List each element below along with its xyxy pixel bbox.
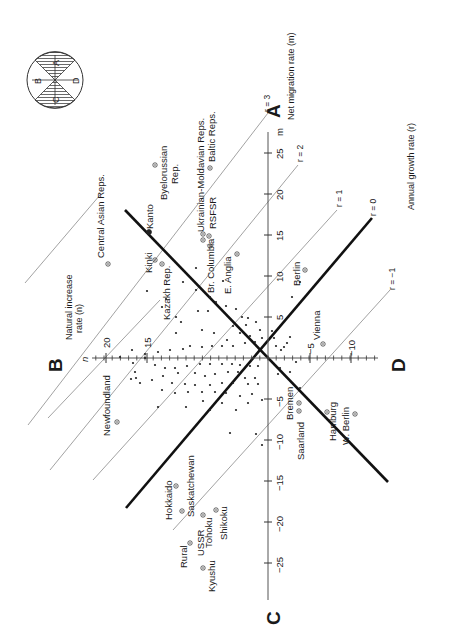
scatter-point xyxy=(232,325,234,327)
scatter-point xyxy=(291,296,293,298)
named-points: Byelorussian Rep. Ukrainian-Moldavian Re… xyxy=(95,111,357,592)
scatter-point xyxy=(209,384,211,386)
diagram-label: 5 xyxy=(274,315,285,320)
scatter-point xyxy=(164,367,166,369)
scatter-point xyxy=(132,362,134,364)
scatter-point xyxy=(185,406,187,408)
scatter-point xyxy=(275,345,277,347)
scatter-point xyxy=(214,373,216,375)
r-line-2 xyxy=(50,165,298,470)
scatter-point xyxy=(239,395,241,397)
scatter-point xyxy=(209,409,211,411)
scatter-point xyxy=(259,329,261,331)
scatter-point xyxy=(131,349,133,351)
diagram-label: E. Anglia xyxy=(222,256,233,294)
quadrant-key-circle: A B C D xyxy=(27,52,83,109)
scatter-point xyxy=(229,432,231,434)
diagram-label: 10 xyxy=(274,271,285,282)
scatter-point xyxy=(194,384,196,386)
scatter-point xyxy=(207,310,209,312)
scatter-point xyxy=(146,290,148,292)
scatter-point xyxy=(247,317,249,319)
scatter-point xyxy=(202,400,204,402)
scatter-point xyxy=(182,348,184,350)
scatter-point xyxy=(154,364,156,366)
diagram-label: 15 xyxy=(142,337,153,348)
scatter-point xyxy=(174,392,176,394)
scatter-point xyxy=(186,365,188,367)
diagram-label: −10 xyxy=(274,434,285,450)
r-line-upper-a xyxy=(25,195,100,283)
diagram-label: 25 xyxy=(274,148,285,159)
n-axis-title-line1: Natural increase xyxy=(64,274,74,340)
scatter-point xyxy=(182,281,184,283)
scatter-point xyxy=(225,392,227,394)
diagram-label: Central Asian Reps. xyxy=(95,174,106,258)
scatter-point xyxy=(261,337,263,339)
scatter-point xyxy=(184,383,186,385)
scatter-point xyxy=(187,391,189,393)
diagram-label: Berlin xyxy=(291,262,302,286)
scatter-point xyxy=(157,351,159,353)
scatter-point xyxy=(215,301,217,303)
scatter-point xyxy=(283,346,285,348)
scatter-point xyxy=(161,389,163,391)
scatter-point xyxy=(299,387,301,389)
quadrant-label-c: C xyxy=(263,611,284,625)
scatter-point xyxy=(255,433,257,435)
n-symbol: n xyxy=(79,357,90,362)
scatter-point xyxy=(221,402,223,404)
quadrant-label-d: D xyxy=(388,358,409,372)
scatter-point xyxy=(199,363,201,365)
scatter-point xyxy=(195,289,197,291)
diagram-label: Kazakh Rep. xyxy=(161,266,172,320)
scatter-point xyxy=(130,378,132,380)
diagram-label: Byelorussian xyxy=(158,146,169,200)
scatter-point xyxy=(289,336,291,338)
scatter-point xyxy=(221,345,223,347)
scatter-point xyxy=(162,375,164,377)
scatter-point xyxy=(286,342,288,344)
scatter-point xyxy=(245,324,247,326)
scatter-point xyxy=(232,345,234,347)
diagram-label: r = 2 xyxy=(295,144,305,162)
scatter-point xyxy=(232,382,234,384)
scatter-point xyxy=(239,332,241,334)
scatter-point xyxy=(279,367,281,369)
scatter-point xyxy=(249,335,251,337)
diagram-label: r = −1 xyxy=(387,268,397,290)
diagram-label: −10 xyxy=(346,340,357,356)
scatter-point xyxy=(237,371,239,373)
scatter-point xyxy=(247,402,249,404)
m-axis-title: Net migration rate (m) xyxy=(286,32,296,120)
population-growth-diagram: A B C D 5 10 15 20 25 m xyxy=(0,0,458,643)
diagram-label: Rep. xyxy=(169,164,180,184)
scatter-point xyxy=(194,372,196,374)
diagram-label: Kanto xyxy=(144,204,155,229)
diagram-label: r = 3 xyxy=(262,94,272,112)
scatter-point xyxy=(189,345,191,347)
key-label-a: A xyxy=(51,60,61,66)
diagram-label: −5 xyxy=(305,343,316,354)
scatter-point xyxy=(201,329,203,331)
scatter-point xyxy=(277,373,279,375)
scatter-point xyxy=(174,367,176,369)
diagram-label: r = 0 xyxy=(368,198,378,216)
scatter-point xyxy=(255,321,257,323)
quadrant-label-b: B xyxy=(45,358,66,372)
n-axis-title-line2: rate (n) xyxy=(74,304,84,333)
scatter-point xyxy=(209,363,211,365)
diagram-label: Vienna xyxy=(311,310,322,340)
scatter-point xyxy=(169,349,171,351)
diagram-label: Br. Columbia xyxy=(205,238,216,293)
scatter-point xyxy=(244,377,246,379)
diagram-label: Shikoku xyxy=(218,506,229,540)
diagram-label: 15 xyxy=(274,230,285,241)
scatter-point xyxy=(209,296,211,298)
scatter-point xyxy=(273,337,275,339)
scatter-point xyxy=(211,345,213,347)
scatter-point xyxy=(201,346,203,348)
diagram-label: Kyushu xyxy=(206,560,217,592)
scatter-point xyxy=(249,365,251,367)
diagram-label: Hokkaido xyxy=(163,480,174,520)
